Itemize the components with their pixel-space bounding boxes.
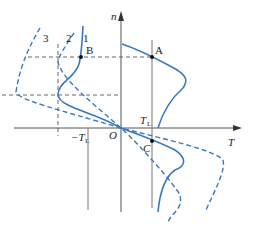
t-axis-arrow-icon: [233, 125, 242, 131]
curve-2-label: 2: [66, 32, 72, 44]
curve-1-label: 1: [83, 32, 89, 44]
t-axis-label: T: [228, 136, 235, 148]
n-axis-label: n: [111, 10, 117, 22]
tick-label-neg-load: −T L: [71, 131, 89, 145]
curve-3-label: 3: [43, 32, 49, 44]
curve-right-upper: [122, 44, 186, 128]
point-a-label: A: [155, 44, 163, 56]
svg-text:L: L: [85, 137, 89, 145]
point-c-marker: [150, 139, 154, 143]
svg-text:−T: −T: [71, 131, 85, 143]
n-axis-arrow-icon: [118, 11, 124, 21]
svg-text:T: T: [140, 114, 147, 126]
svg-text:L: L: [147, 120, 151, 128]
point-b-marker: [79, 55, 83, 59]
origin-label: O: [109, 129, 117, 141]
diagram-canvas: n T O A B C 1 2 3 T L −T L: [0, 0, 257, 232]
point-a-marker: [150, 55, 154, 59]
n-axis: [118, 11, 124, 212]
point-c-label: C: [143, 142, 151, 154]
point-b-label: B: [86, 44, 93, 56]
curve-3: [16, 28, 224, 212]
tick-label-pos-load: T L: [140, 114, 151, 128]
